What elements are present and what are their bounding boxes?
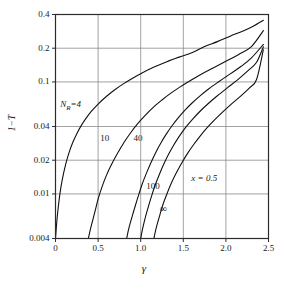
- curve-N_R=4: [56, 20, 264, 238]
- curve-100: [141, 47, 264, 239]
- tick-marks: [52, 15, 269, 243]
- gridlines: [56, 15, 269, 239]
- plot-area: [0, 0, 288, 286]
- curves: [56, 20, 264, 238]
- curve-10: [88, 31, 263, 239]
- chart-figure: 1−T γ 0.40.20.10.040.020.010.004 00.51.0…: [0, 0, 288, 286]
- curve-infinity: [154, 50, 263, 239]
